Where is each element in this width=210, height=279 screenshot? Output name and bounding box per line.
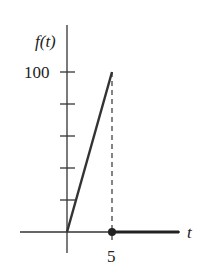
chart: f(t) 100 5 t <box>0 0 210 279</box>
x-tick-label-5: 5 <box>107 247 116 266</box>
x-axis-label: t <box>187 223 193 242</box>
filled-dot-marker <box>108 228 116 236</box>
ramp-line <box>67 72 112 232</box>
y-axis-label: f(t) <box>35 32 56 51</box>
y-tick-label-100: 100 <box>24 63 50 82</box>
